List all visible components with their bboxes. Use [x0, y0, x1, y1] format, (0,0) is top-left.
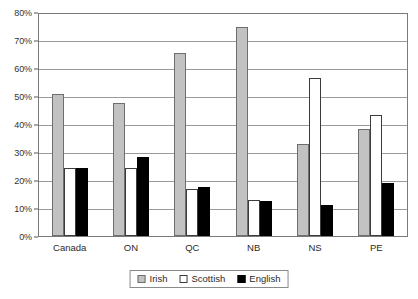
legend-item-english: English	[237, 273, 280, 284]
bar-ns-irish	[297, 144, 309, 236]
y-axis-tick-label: 80%	[14, 8, 32, 18]
x-axis-label-on: ON	[100, 242, 161, 253]
bar-ns-scottish	[309, 78, 321, 236]
legend-label: Scottish	[191, 273, 225, 284]
y-axis-tick-label: 0%	[19, 232, 32, 242]
legend-item-scottish: Scottish	[179, 273, 225, 284]
bar-group-ns	[284, 14, 345, 236]
bar-on-english	[137, 157, 149, 236]
y-axis: 0%10%20%30%40%50%60%70%80%	[0, 13, 38, 237]
legend-label: Irish	[150, 273, 168, 284]
bar-nb-scottish	[248, 200, 260, 236]
bar-pe-irish	[358, 129, 370, 236]
bar-pe-scottish	[370, 115, 382, 236]
y-axis-tick-label: 60%	[14, 64, 32, 74]
x-axis-labels: CanadaONQCNBNSPE	[39, 242, 407, 253]
x-axis-label-canada: Canada	[39, 242, 100, 253]
y-axis-tick-label: 20%	[14, 176, 32, 186]
bar-group-canada	[39, 14, 100, 236]
x-axis-label-nb: NB	[223, 242, 284, 253]
y-axis-tick-label: 50%	[14, 92, 32, 102]
y-axis-tick-label: 30%	[14, 148, 32, 158]
bar-qc-scottish	[186, 189, 198, 236]
bar-pe-english	[382, 183, 394, 236]
bar-chart: 0%10%20%30%40%50%60%70%80% CanadaONQCNBN…	[0, 0, 418, 299]
bar-groups	[39, 14, 407, 236]
bar-qc-english	[198, 187, 210, 236]
x-axis-label-qc: QC	[162, 242, 223, 253]
legend-swatch-scottish-icon	[179, 275, 187, 283]
legend-label: English	[249, 273, 280, 284]
bar-on-irish	[113, 103, 125, 236]
bar-group-pe	[346, 14, 407, 236]
bar-on-scottish	[125, 168, 137, 236]
bar-nb-irish	[236, 27, 248, 237]
legend-item-irish: Irish	[138, 273, 168, 284]
bar-nb-english	[260, 201, 272, 236]
legend-swatch-english-icon	[237, 275, 245, 283]
bar-canada-english	[76, 168, 88, 236]
bar-canada-scottish	[64, 168, 76, 236]
legend: IrishScottishEnglish	[130, 270, 289, 288]
y-axis-tick-label: 10%	[14, 204, 32, 214]
y-axis-tick-label: 40%	[14, 120, 32, 130]
bar-group-nb	[223, 14, 284, 236]
legend-swatch-irish-icon	[138, 275, 146, 283]
bar-group-qc	[162, 14, 223, 236]
bar-ns-english	[321, 205, 333, 236]
y-axis-tick-label: 70%	[14, 36, 32, 46]
x-axis-label-ns: NS	[284, 242, 345, 253]
x-axis-label-pe: PE	[346, 242, 407, 253]
bar-group-on	[100, 14, 161, 236]
bar-canada-irish	[52, 94, 64, 236]
bar-qc-irish	[174, 53, 186, 236]
